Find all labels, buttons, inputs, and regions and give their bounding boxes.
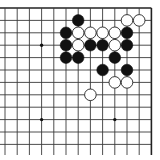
- black-stone: [60, 52, 72, 64]
- black-stone: [72, 52, 84, 64]
- white-stone: [85, 27, 97, 39]
- black-stone: [72, 15, 84, 27]
- white-stone: [72, 27, 84, 39]
- white-stone: [109, 27, 121, 39]
- star-point: [40, 44, 43, 47]
- white-stone: [133, 15, 145, 27]
- star-point: [40, 118, 43, 121]
- white-stone: [121, 15, 133, 27]
- go-board: [0, 0, 160, 160]
- white-stone: [109, 39, 121, 51]
- white-stone: [121, 77, 133, 89]
- white-stone: [72, 39, 84, 51]
- star-point: [113, 118, 116, 121]
- white-stone: [97, 27, 109, 39]
- white-stone: [109, 77, 121, 89]
- black-stone: [60, 39, 72, 51]
- black-stone: [97, 39, 109, 51]
- black-stone: [121, 64, 133, 76]
- black-stone: [60, 27, 72, 39]
- black-stone: [85, 39, 97, 51]
- black-stone: [97, 64, 109, 76]
- black-stone: [121, 39, 133, 51]
- black-stone: [121, 27, 133, 39]
- white-stone: [85, 89, 97, 101]
- black-stone: [109, 52, 121, 64]
